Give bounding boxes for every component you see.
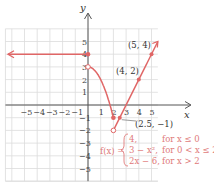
case-3-cond: for x > 2 [162, 156, 200, 166]
y-tick-label: −4 [79, 152, 91, 161]
open-dot-0-3 [86, 65, 91, 70]
labeled-point-dot [137, 78, 141, 82]
piecewise-function-graph: −5−4−3−2−112345−5−4−3−2−112345 y x (5, 4… [0, 0, 214, 187]
piecewise-definition: f(x) = 4, for x ≤ 0 3 − x², for 0 < x ≤ … [100, 134, 214, 166]
case-2-cond: for 0 < x ≤ 2 [162, 145, 214, 155]
y-tick-label: 2 [82, 76, 87, 85]
closed-dot-0-4 [86, 52, 91, 57]
x-tick-label: 5 [150, 108, 155, 117]
case-2-expr: 3 − x², [129, 145, 158, 155]
point-label-5-4: (5, 4) [128, 40, 151, 50]
y-axis-label: y [79, 2, 86, 13]
x-tick-label: −2 [59, 108, 71, 117]
brace [121, 134, 128, 166]
y-tick-label: −2 [79, 126, 91, 135]
y-tick-label: −3 [79, 139, 91, 148]
point-label-4-2: (4, 2) [116, 66, 139, 76]
closed-dot-2-neg1 [111, 115, 116, 120]
y-tick-label: −5 [79, 165, 91, 174]
x-tick-label: 1 [99, 108, 104, 117]
x-tick-label: 3 [124, 108, 129, 117]
labeled-point-dot [118, 116, 122, 120]
function-name: f(x) = [100, 146, 124, 156]
x-tick-label: −4 [33, 108, 45, 117]
x-tick-label: −5 [21, 108, 33, 117]
case-3-expr: 2x − 6, [129, 156, 160, 166]
y-tick-label: 5 [82, 38, 87, 47]
y-tick-label: −1 [79, 114, 91, 123]
x-tick-label: −3 [46, 108, 58, 117]
case-1-cond: for x ≤ 0 [162, 134, 200, 144]
y-tick-label: 1 [82, 88, 87, 97]
point-label-2.5-neg1: (2.5, −1) [135, 119, 173, 129]
labeled-point-dot [150, 52, 154, 56]
case-1-expr: 4, [129, 134, 137, 144]
open-dot-2-neg2 [111, 128, 116, 133]
x-tick-label: 4 [137, 108, 142, 117]
leader-line [122, 120, 136, 121]
x-axis-label: x [184, 109, 190, 120]
